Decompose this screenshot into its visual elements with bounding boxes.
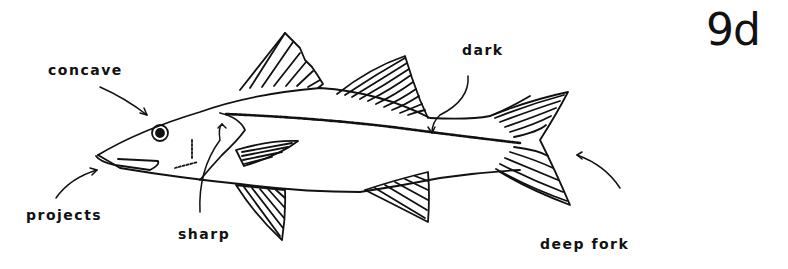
label-projects: projects bbox=[26, 207, 102, 223]
label-dark: dark bbox=[462, 42, 504, 58]
label-sharp: sharp bbox=[178, 226, 230, 242]
dark-arrow bbox=[432, 76, 468, 133]
figure-id: 9d bbox=[706, 4, 760, 55]
concave-arrow bbox=[100, 87, 147, 115]
caudal-fin bbox=[490, 92, 570, 205]
jaw bbox=[96, 156, 158, 170]
label-deep-fork: deep fork bbox=[540, 236, 629, 252]
pelvic-fin bbox=[236, 185, 285, 240]
deep-fork-arrow bbox=[577, 155, 620, 188]
anal-fin bbox=[365, 172, 429, 222]
fish-diagram: concave projects sharp dark deep fork 9d bbox=[0, 0, 788, 269]
pectoral-fin bbox=[236, 141, 298, 166]
soft-dorsal-fin bbox=[337, 56, 428, 118]
label-concave: concave bbox=[48, 62, 123, 78]
projects-arrow bbox=[56, 170, 97, 198]
fish-illustration bbox=[0, 0, 788, 269]
spiny-dorsal-fin bbox=[240, 33, 323, 90]
gill-cover bbox=[175, 113, 245, 180]
eye bbox=[152, 125, 168, 141]
